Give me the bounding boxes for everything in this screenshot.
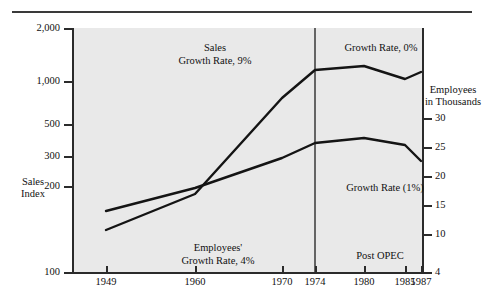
annotation-post-opec: Post OPEC bbox=[330, 250, 430, 263]
annotation-growth-rate-one: Growth Rate (1%) bbox=[326, 182, 444, 195]
series-line-employees bbox=[106, 138, 421, 211]
annotation-employees-growth: Employees' Growth Rate, 4% bbox=[148, 242, 288, 267]
chart-figure: 2,000 1,000 500 300 200 100 30 25 20 15 … bbox=[0, 0, 484, 303]
annotation-growth-rate-zero: Growth Rate, 0% bbox=[322, 42, 440, 55]
series-line-sales-index bbox=[106, 66, 421, 230]
annotation-sales-growth: Sales Growth Rate, 9% bbox=[152, 42, 278, 67]
